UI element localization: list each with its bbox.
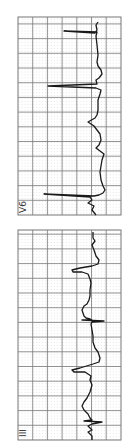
- lead-label-v6: V6: [18, 201, 28, 213]
- strip-iii: III: [18, 230, 121, 440]
- lead-label-iii: III: [18, 429, 28, 437]
- ecg-strips: V6 III: [0, 0, 128, 445]
- grid-background: [18, 230, 121, 440]
- strip-v6: V6: [18, 17, 121, 215]
